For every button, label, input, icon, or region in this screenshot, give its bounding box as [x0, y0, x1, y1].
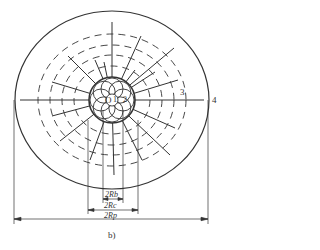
label-4: 4 — [212, 96, 217, 105]
label-center-o: O — [105, 96, 112, 105]
dimension-2rb: 2Rb — [105, 191, 118, 199]
dimension-2rp: 2Rp — [104, 212, 117, 220]
dimension-2rc: 2Rc — [104, 202, 116, 210]
label-1: 1 — [113, 96, 117, 104]
label-2: 2 — [123, 96, 127, 104]
figure-caption: b) — [108, 230, 116, 240]
label-3: 3 — [180, 88, 185, 97]
